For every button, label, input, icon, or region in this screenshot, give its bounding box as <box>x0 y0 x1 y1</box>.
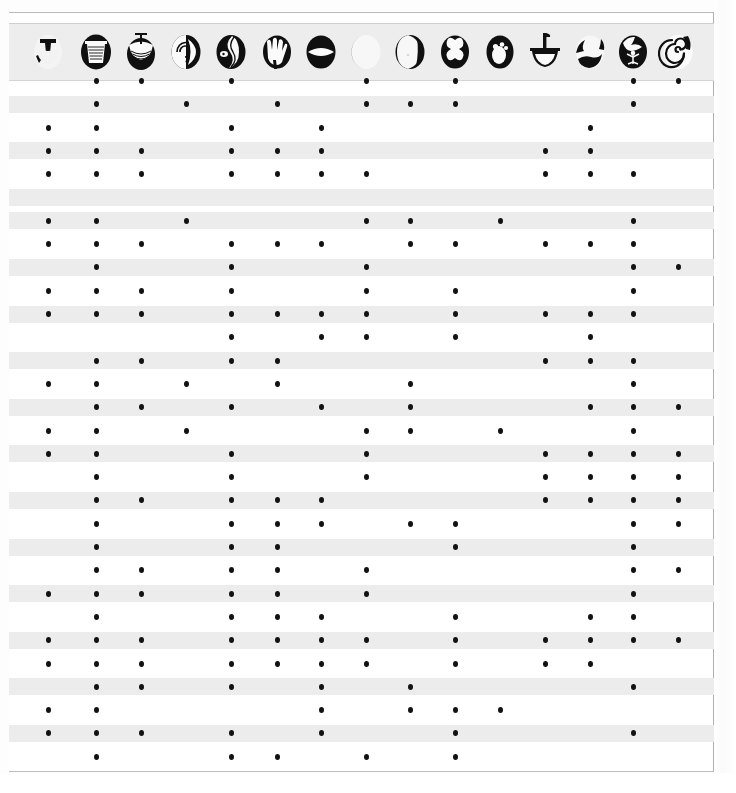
presence-dot[interactable] <box>631 101 636 107</box>
table-row[interactable] <box>9 350 714 372</box>
presence-dot[interactable] <box>453 754 458 760</box>
presence-dot[interactable] <box>588 637 593 643</box>
presence-dot[interactable] <box>139 661 144 667</box>
presence-dot[interactable] <box>588 334 593 340</box>
presence-dot[interactable] <box>588 148 593 154</box>
presence-dot[interactable] <box>676 264 681 270</box>
presence-dot[interactable] <box>543 358 548 364</box>
presence-dot[interactable] <box>631 241 636 247</box>
presence-dot[interactable] <box>676 474 681 480</box>
table-row[interactable] <box>9 559 714 581</box>
presence-dot[interactable] <box>229 637 234 643</box>
presence-dot[interactable] <box>229 661 234 667</box>
presence-dot[interactable] <box>631 404 636 410</box>
presence-dot[interactable] <box>275 497 280 503</box>
presence-dot[interactable] <box>94 78 99 84</box>
presence-dot[interactable] <box>184 218 189 224</box>
presence-dot[interactable] <box>275 754 280 760</box>
presence-dot[interactable] <box>229 334 234 340</box>
presence-dot[interactable] <box>229 404 234 410</box>
table-row[interactable] <box>9 606 714 628</box>
presence-dot[interactable] <box>275 591 280 597</box>
presence-dot[interactable] <box>453 521 458 527</box>
presence-dot[interactable] <box>139 358 144 364</box>
presence-dot[interactable] <box>631 567 636 573</box>
presence-dot[interactable] <box>676 521 681 527</box>
presence-dot[interactable] <box>631 614 636 620</box>
presence-dot[interactable] <box>275 661 280 667</box>
table-row[interactable] <box>9 489 714 511</box>
table-row[interactable] <box>9 210 714 232</box>
presence-dot[interactable] <box>229 171 234 177</box>
presence-dot[interactable] <box>139 567 144 573</box>
presence-dot[interactable] <box>319 241 324 247</box>
presence-dot[interactable] <box>676 637 681 643</box>
table-row[interactable] <box>9 443 714 465</box>
presence-dot[interactable] <box>94 614 99 620</box>
presence-dot[interactable] <box>229 358 234 364</box>
presence-dot[interactable] <box>94 497 99 503</box>
table-row[interactable] <box>9 163 714 185</box>
presence-dot[interactable] <box>275 148 280 154</box>
presence-dot[interactable] <box>46 311 51 317</box>
presence-dot[interactable] <box>498 428 503 434</box>
presence-dot[interactable] <box>364 264 369 270</box>
presence-dot[interactable] <box>94 591 99 597</box>
presence-dot[interactable] <box>319 497 324 503</box>
presence-dot[interactable] <box>94 474 99 480</box>
presence-dot[interactable] <box>94 754 99 760</box>
presence-dot[interactable] <box>408 241 413 247</box>
presence-dot[interactable] <box>275 241 280 247</box>
presence-dot[interactable] <box>631 264 636 270</box>
table-row[interactable] <box>9 93 714 115</box>
presence-dot[interactable] <box>631 311 636 317</box>
presence-dot[interactable] <box>46 171 51 177</box>
presence-dot[interactable] <box>588 311 593 317</box>
presence-dot[interactable] <box>275 567 280 573</box>
presence-dot[interactable] <box>453 544 458 550</box>
presence-dot[interactable] <box>94 358 99 364</box>
presence-dot[interactable] <box>275 381 280 387</box>
table-row[interactable] <box>9 653 714 675</box>
presence-dot[interactable] <box>229 521 234 527</box>
presence-dot[interactable] <box>543 148 548 154</box>
presence-dot[interactable] <box>453 334 458 340</box>
presence-dot[interactable] <box>364 474 369 480</box>
presence-dot[interactable] <box>139 148 144 154</box>
table-row[interactable] <box>9 70 714 92</box>
presence-dot[interactable] <box>364 288 369 294</box>
table-row[interactable] <box>9 629 714 651</box>
presence-dot[interactable] <box>94 101 99 107</box>
presence-dot[interactable] <box>676 451 681 457</box>
presence-dot[interactable] <box>588 661 593 667</box>
presence-dot[interactable] <box>46 241 51 247</box>
presence-dot[interactable] <box>229 614 234 620</box>
presence-dot[interactable] <box>408 218 413 224</box>
presence-dot[interactable] <box>631 474 636 480</box>
presence-dot[interactable] <box>631 218 636 224</box>
presence-dot[interactable] <box>631 78 636 84</box>
presence-dot[interactable] <box>364 754 369 760</box>
presence-dot[interactable] <box>364 661 369 667</box>
presence-dot[interactable] <box>229 474 234 480</box>
presence-dot[interactable] <box>139 497 144 503</box>
presence-dot[interactable] <box>631 637 636 643</box>
presence-dot[interactable] <box>631 591 636 597</box>
presence-dot[interactable] <box>319 334 324 340</box>
presence-dot[interactable] <box>139 311 144 317</box>
presence-dot[interactable] <box>543 661 548 667</box>
presence-dot[interactable] <box>229 544 234 550</box>
presence-dot[interactable] <box>676 404 681 410</box>
presence-dot[interactable] <box>631 358 636 364</box>
presence-dot[interactable] <box>229 451 234 457</box>
presence-dot[interactable] <box>543 451 548 457</box>
presence-dot[interactable] <box>364 334 369 340</box>
presence-dot[interactable] <box>453 707 458 713</box>
presence-dot[interactable] <box>184 381 189 387</box>
presence-dot[interactable] <box>275 637 280 643</box>
presence-dot[interactable] <box>631 497 636 503</box>
presence-dot[interactable] <box>588 474 593 480</box>
presence-dot[interactable] <box>139 288 144 294</box>
presence-dot[interactable] <box>46 707 51 713</box>
presence-dot[interactable] <box>46 428 51 434</box>
